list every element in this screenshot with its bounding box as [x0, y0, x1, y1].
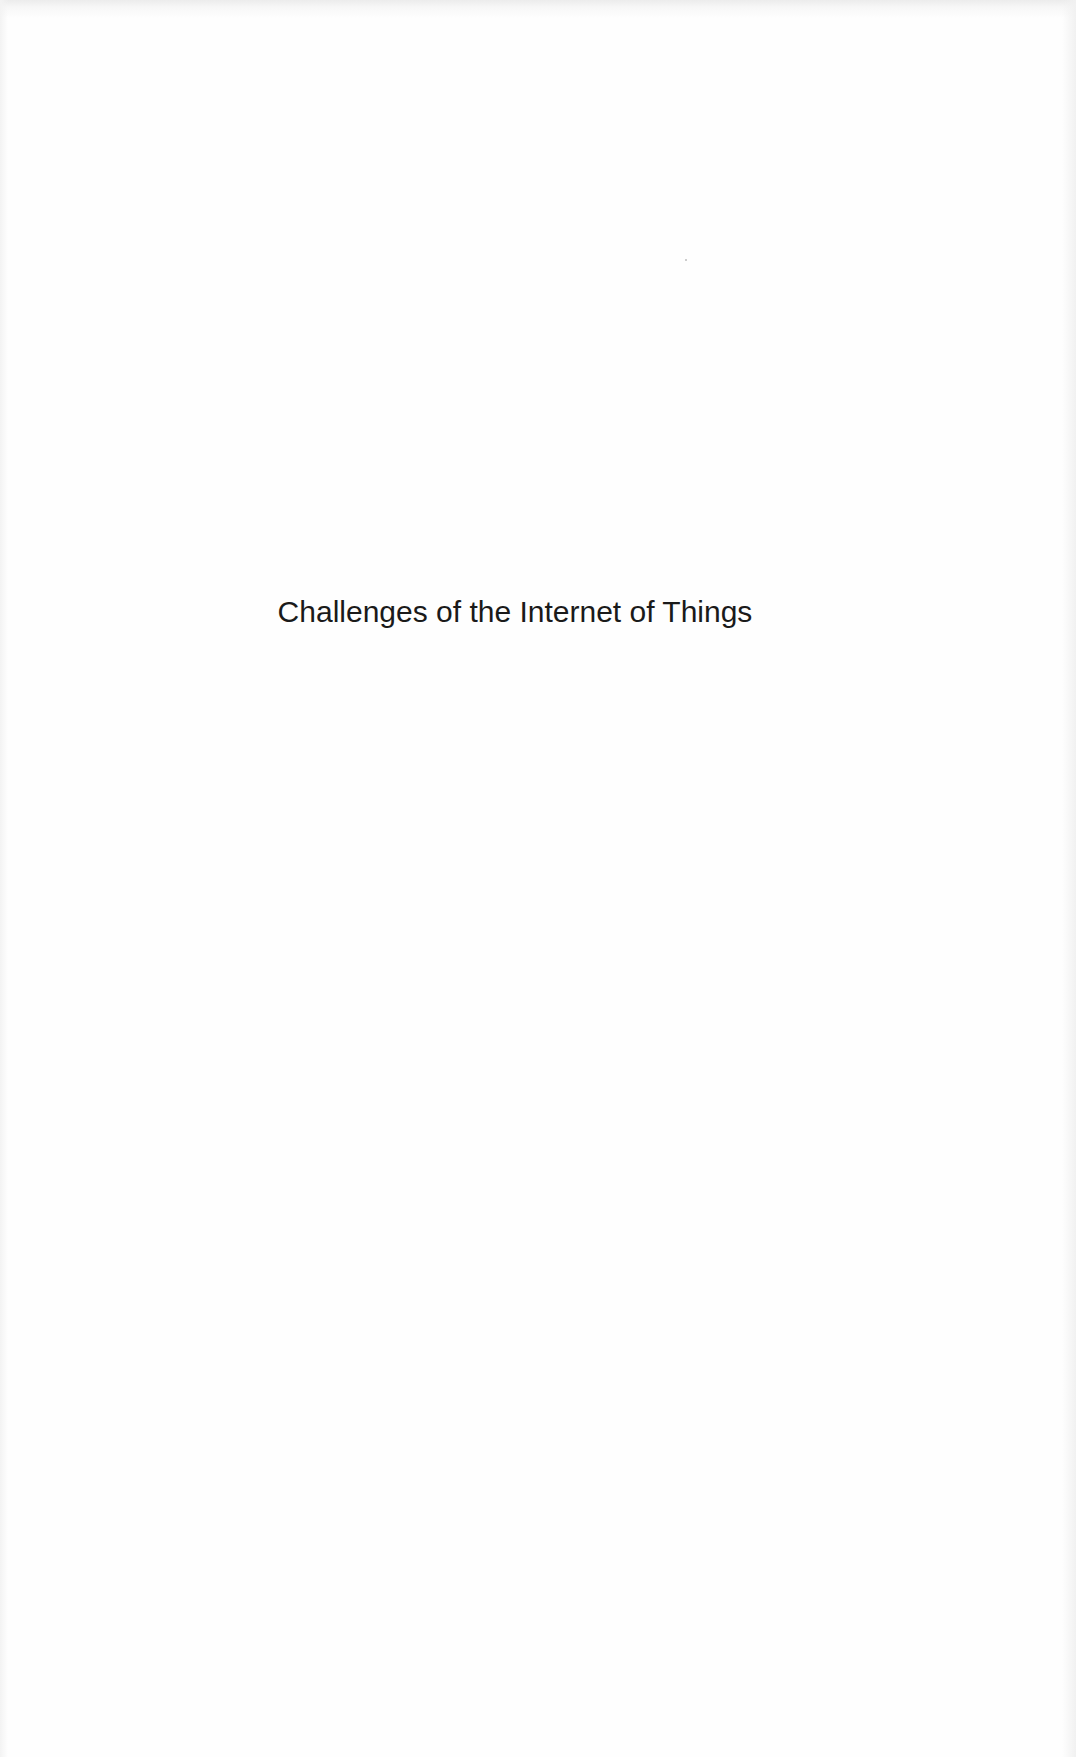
scan-edge-top	[0, 0, 1076, 18]
scan-speck	[685, 259, 687, 261]
book-page: Challenges of the Internet of Things	[0, 0, 1076, 1757]
scan-edge-right	[1062, 0, 1076, 1757]
scan-edge-left	[0, 0, 8, 1757]
half-title: Challenges of the Internet of Things	[0, 590, 1030, 634]
